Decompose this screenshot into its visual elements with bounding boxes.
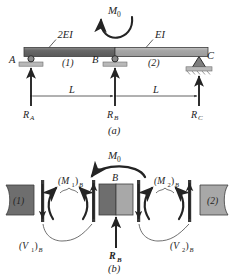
left-shear-label: (V xyxy=(19,241,29,252)
center-block-left-half xyxy=(99,184,116,215)
support-c-triangle xyxy=(193,57,206,68)
leader-ei xyxy=(146,40,153,48)
dimension-span-ab-label: L xyxy=(68,84,75,95)
support-b-base xyxy=(103,62,127,66)
center-block-b xyxy=(99,184,133,215)
node-c-label: C xyxy=(207,50,215,61)
left-moment-label: (M xyxy=(58,176,70,187)
left-shear-tail: ) xyxy=(35,241,38,252)
center-reaction-label: R xyxy=(108,250,116,261)
node-a-label: A xyxy=(8,54,16,65)
reaction-c-label: R xyxy=(190,109,197,120)
left-shear-leader xyxy=(43,224,92,241)
right-moment-connector xyxy=(156,188,174,193)
reaction-a-subscript: A xyxy=(29,114,35,122)
support-b-roller xyxy=(112,56,118,62)
panel-b-applied-moment-arc xyxy=(92,166,145,177)
right-moment-arc xyxy=(176,188,183,219)
support-a xyxy=(19,56,43,66)
left-moment-connector xyxy=(60,188,78,193)
applied-moment-subscript: 0 xyxy=(117,10,121,19)
leader-2ei xyxy=(49,40,56,48)
support-a-roller xyxy=(28,56,34,62)
support-b xyxy=(103,56,127,66)
stiffness-label-2: EI xyxy=(154,29,165,40)
reaction-b-subscript: B xyxy=(114,114,119,122)
center-block-label: B xyxy=(112,172,118,183)
beam-segment-1 xyxy=(24,48,115,57)
right-shear-leader xyxy=(139,224,189,241)
dimension-span-ab: L xyxy=(33,84,113,96)
right-shear-tail: ) xyxy=(186,241,189,252)
left-moment-arc xyxy=(49,188,56,219)
applied-moment-arc xyxy=(101,17,132,38)
segment-1-label: (1) xyxy=(62,57,74,69)
reaction-c-subscript: C xyxy=(198,114,203,122)
center-block-right-half xyxy=(116,184,133,215)
beam-figure: 2EI EI M 0 A B xyxy=(0,0,234,277)
right-body: (2) xyxy=(200,185,228,215)
panel-b-applied-moment-subscript: 0 xyxy=(117,155,121,164)
reaction-b-label: R xyxy=(106,109,113,120)
panel-b-caption: (b) xyxy=(108,263,121,275)
beam-segment-2 xyxy=(115,48,208,57)
right-shear-label: (V xyxy=(170,241,180,252)
dimension-span-bc: L xyxy=(117,84,197,96)
segment-2-label: (2) xyxy=(148,57,160,69)
panel-b: (1) (M 1 ) B B R B (M 2 xyxy=(6,149,228,275)
left-moment-tail-subscript: B xyxy=(79,181,83,188)
left-body: (1) xyxy=(6,185,34,215)
right-shear-tail-subscript: B xyxy=(190,246,194,253)
panel-a-caption: (a) xyxy=(108,125,121,137)
left-moment-tail: ) xyxy=(75,176,78,187)
node-b-label: B xyxy=(92,54,99,65)
support-c-base xyxy=(186,67,212,71)
left-shear-tail-subscript: B xyxy=(39,246,43,253)
right-moment-label: (M xyxy=(154,176,166,187)
left-body-label: (1) xyxy=(13,196,24,207)
support-c-hatch xyxy=(187,71,210,75)
block-left-moment-arc xyxy=(80,188,87,219)
stiffness-label-1: 2EI xyxy=(58,29,74,40)
right-moment-tail-subscript: B xyxy=(175,181,179,188)
panel-a: 2EI EI M 0 A B xyxy=(8,4,215,138)
dimension-span-bc-label: L xyxy=(152,84,159,95)
right-body-label: (2) xyxy=(207,196,218,207)
support-a-base xyxy=(19,62,43,66)
block-right-moment-arc xyxy=(145,188,152,219)
reaction-a-label: R xyxy=(22,109,29,120)
right-moment-tail: ) xyxy=(171,176,174,187)
